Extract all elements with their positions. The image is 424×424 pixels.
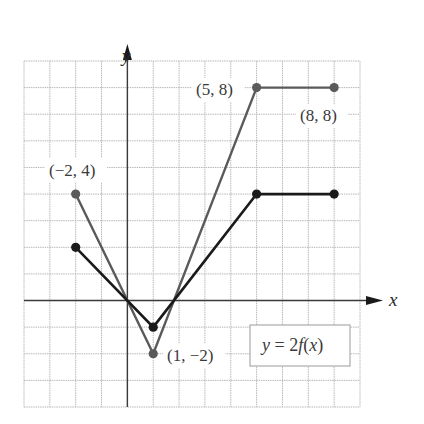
series-2f-point	[71, 189, 80, 198]
chart: (−2, 4) (5, 8) (8, 8) (1, −2) y = 2f(x) …	[0, 0, 424, 424]
label-point-5-8: (5, 8)	[196, 80, 233, 99]
x-axis-label: x	[388, 289, 398, 310]
label-point-1-neg2: (1, −2)	[167, 346, 213, 365]
label-point-8-8: (8, 8)	[300, 106, 337, 125]
series-f-point	[252, 189, 261, 198]
series-f-point	[330, 189, 339, 198]
label-point-neg2-4: (−2, 4)	[49, 161, 95, 180]
y-axis-label: y	[120, 45, 131, 66]
equation-legend-box: y = 2f(x)	[250, 325, 350, 366]
series-2f-point	[330, 83, 339, 92]
series-f-point	[71, 243, 80, 252]
equation-label: y = 2f(x)	[260, 335, 323, 356]
x-axis-arrow-icon	[366, 296, 383, 305]
series-2f-point	[149, 349, 158, 358]
series-2f-point	[252, 83, 261, 92]
series-f-point	[149, 323, 158, 332]
